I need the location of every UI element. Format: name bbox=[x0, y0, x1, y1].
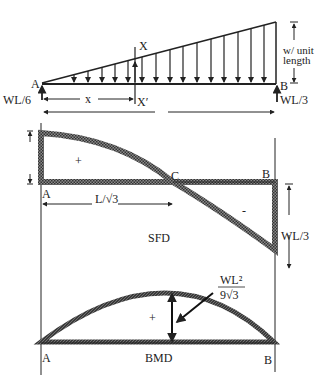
bending-moment-diagram: + WL² 9√3 A BMD B bbox=[41, 273, 274, 367]
section-top-label: X bbox=[139, 39, 148, 53]
sfd-positive-region bbox=[41, 133, 173, 182]
bmd-positive-sign: + bbox=[149, 311, 156, 325]
load-slope bbox=[42, 22, 276, 83]
sfd-point-b: B bbox=[262, 167, 270, 181]
sfd-max-negative-label: WL/3 bbox=[281, 229, 309, 243]
beam-diagram: X X′ A WL/6 B WL/3 w/ unit length x bbox=[0, 0, 325, 388]
x-distance-label: x bbox=[85, 92, 91, 106]
bmd-max-denominator: 9√3 bbox=[220, 288, 239, 302]
sfd-positive-sign: + bbox=[75, 154, 82, 168]
support-b-label: B bbox=[280, 79, 288, 93]
zero-shear-distance-label: L/√3 bbox=[95, 192, 118, 206]
shear-force-diagram: + - A C B L/√3 WL/3 SFD bbox=[27, 131, 309, 268]
bmd-title: BMD bbox=[145, 351, 173, 365]
reaction-a-label: WL/6 bbox=[3, 93, 31, 107]
bmd-max-numerator: WL² bbox=[220, 273, 243, 287]
bmd-point-a: A bbox=[42, 351, 51, 365]
sfd-negative-sign: - bbox=[242, 204, 246, 218]
sfd-point-a: A bbox=[42, 187, 51, 201]
sfd-point-c: C bbox=[171, 169, 179, 183]
bmd-point-b: B bbox=[264, 353, 272, 367]
support-a-label: A bbox=[31, 77, 40, 91]
sfd-negative-region bbox=[173, 182, 275, 250]
section-bottom-label: X′ bbox=[137, 95, 149, 109]
bmd-region bbox=[41, 293, 274, 342]
reaction-b-label: WL/3 bbox=[280, 93, 308, 107]
loading-diagram: X X′ A WL/6 B WL/3 w/ unit length x bbox=[3, 22, 314, 112]
load-intensity-label-2: length bbox=[283, 54, 311, 66]
sfd-title: SFD bbox=[148, 231, 170, 245]
load-arrows bbox=[74, 25, 264, 82]
